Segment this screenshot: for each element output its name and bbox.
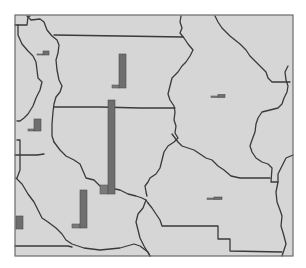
bar-2 [108,100,115,194]
bar-1 [37,54,43,55]
bar-symbol-west-edge[interactable] [16,216,23,229]
bar-2 [80,190,87,228]
land-area [15,15,293,256]
bar-1 [211,96,218,98]
bar-1 [207,198,214,200]
bar-2 [34,119,41,131]
bar-1 [100,185,108,194]
map-container [0,0,306,268]
bar-2 [218,95,225,98]
bar-2 [43,51,49,55]
bar-1 [112,85,119,88]
region-map [0,0,306,268]
bar-1 [72,224,80,228]
bar-2 [214,197,222,200]
bar-2 [119,54,126,88]
bar-2 [16,216,23,229]
bar-1 [28,129,34,131]
